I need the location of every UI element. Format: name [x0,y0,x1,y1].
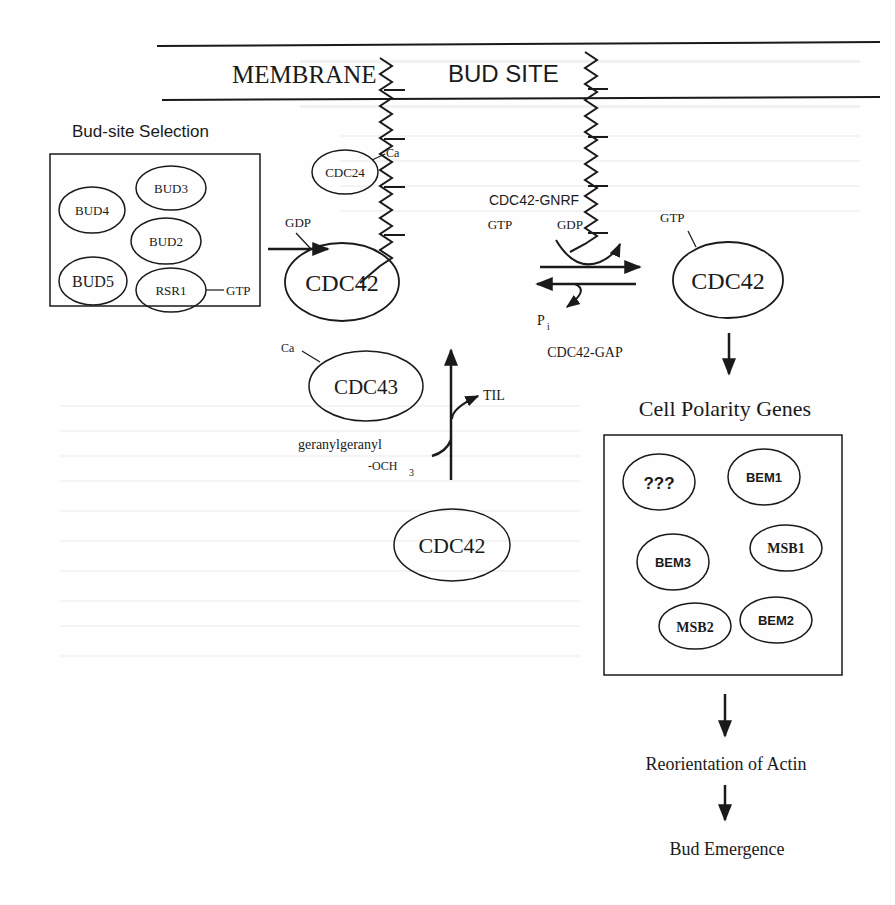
cell-polarity-title: Cell Polarity Genes [639,396,811,421]
reorientation-of-actin: Reorientation of Actin [646,754,807,774]
cell-polarity-box [604,435,842,675]
svg-text:CDC42: CDC42 [691,268,764,294]
protein-bem2: BEM2 [740,597,812,643]
protein-msb1: MSB1 [750,525,822,571]
cdc42-pathway-diagram: MEMBRANE BUD SITE Bud-site Selection BUD… [0,0,895,905]
protein-unknown: ??? [623,454,695,510]
svg-text:i: i [547,321,550,332]
svg-text:GTP: GTP [488,217,513,232]
protein-bud5: BUD5 [59,257,127,305]
svg-text:BUD3: BUD3 [154,181,188,196]
svg-text:CDC42-GAP: CDC42-GAP [547,345,623,360]
membrane-bottom-line [162,97,880,100]
protein-cdc42-gtp: CDC42 GTP [660,210,783,318]
geranylgeranyl-label: geranylgeranyl [298,437,382,452]
geranylgeranyl-input-arrow [432,440,451,456]
gtp-exchange-reaction: CDC42-GNRF GTP GDP P i CDC42-GAP [488,192,640,360]
svg-text:MSB2: MSB2 [676,620,713,635]
til-release-arrow [452,396,478,419]
svg-text:GDP: GDP [557,217,583,232]
svg-text:GTP: GTP [660,210,685,225]
svg-text:CDC42: CDC42 [305,270,378,296]
protein-bem1: BEM1 [728,449,800,505]
och3-label: -OCH [368,459,398,473]
svg-text:BUD2: BUD2 [149,234,183,249]
svg-text:MSB1: MSB1 [767,541,804,556]
protein-cdc42-gdp: CDC42 GDP [285,215,399,321]
svg-text:GDP: GDP [285,215,311,230]
svg-text:BEM1: BEM1 [746,470,782,485]
protein-cdc43: CDC43 Ca [281,341,423,421]
lipid-anchor-left [360,58,405,283]
svg-text:CDC42-GNRF: CDC42-GNRF [489,192,579,208]
och3-sub: 3 [409,467,414,478]
svg-text:Ca: Ca [281,341,295,355]
til-label: TIL [483,388,505,403]
bud-site-selection-title: Bud-site Selection [72,122,209,141]
membrane-label: MEMBRANE [232,61,376,88]
bud-emergence: Bud Emergence [669,839,784,859]
svg-text:CDC43: CDC43 [334,375,398,399]
bleed-through-text [60,60,860,657]
svg-text:CDC42: CDC42 [418,533,485,558]
svg-text:CDC24: CDC24 [325,165,365,180]
svg-text:RSR1: RSR1 [155,283,186,298]
svg-text:BEM3: BEM3 [655,555,691,570]
protein-msb2: MSB2 [659,603,731,649]
protein-bud3: BUD3 [136,166,206,210]
protein-bud2: BUD2 [131,218,201,264]
svg-text:GTP: GTP [226,283,251,298]
svg-text:BEM2: BEM2 [758,613,794,628]
svg-text:BUD4: BUD4 [75,203,109,218]
protein-bud4: BUD4 [59,187,125,233]
svg-text:BUD5: BUD5 [72,273,114,290]
svg-text:???: ??? [643,474,674,493]
svg-text:Ca: Ca [386,146,400,160]
svg-text:P: P [537,313,545,328]
protein-bem3: BEM3 [637,534,709,590]
membrane-top-line [157,42,880,46]
bud-site-label: BUD SITE [448,60,559,87]
